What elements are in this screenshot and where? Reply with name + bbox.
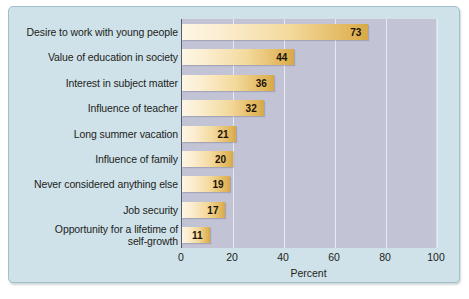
bar-row: 17 bbox=[182, 202, 436, 218]
bar-row: 73 bbox=[182, 24, 436, 40]
category-label-line: Influence of teacher bbox=[6, 102, 178, 114]
bar-value-label: 32 bbox=[246, 103, 257, 114]
plot-area: 734436322120191711 bbox=[181, 19, 436, 248]
bar-value-label: 19 bbox=[212, 179, 223, 190]
x-tick-80: 80 bbox=[379, 251, 391, 263]
bar-row: 44 bbox=[182, 49, 436, 65]
category-label-line: Never considered anything else bbox=[6, 178, 178, 190]
x-axis-title: Percent bbox=[181, 267, 436, 279]
category-label-line: Influence of family bbox=[6, 153, 178, 165]
bar-value-label: 21 bbox=[218, 128, 229, 139]
figure-root: Desire to work with young peopleValue of… bbox=[0, 0, 469, 299]
x-tick-40: 40 bbox=[277, 251, 289, 263]
category-label: Value of education in society bbox=[6, 51, 178, 63]
bar-value-label: 20 bbox=[215, 153, 226, 164]
x-tick-0: 0 bbox=[178, 251, 184, 263]
category-label: Never considered anything else bbox=[6, 178, 178, 190]
bar-row: 21 bbox=[182, 126, 436, 142]
bar-row: 11 bbox=[182, 227, 436, 243]
category-label-line: Opportunity for a lifetime of bbox=[6, 223, 178, 235]
bar bbox=[182, 24, 368, 40]
category-label-line: self-growth bbox=[6, 235, 178, 247]
gridline-100 bbox=[437, 19, 438, 248]
bar-value-label: 17 bbox=[207, 204, 218, 215]
category-label: Influence of family bbox=[6, 153, 178, 165]
bar-value-label: 36 bbox=[256, 77, 267, 88]
category-label-line: Value of education in society bbox=[6, 51, 178, 63]
category-label: Interest in subject matter bbox=[6, 77, 178, 89]
category-label-line: Interest in subject matter bbox=[6, 77, 178, 89]
category-label: Influence of teacher bbox=[6, 102, 178, 114]
category-label: Opportunity for a lifetime ofself-growth bbox=[6, 223, 178, 247]
category-label: Desire to work with young people bbox=[6, 26, 178, 38]
bar-row: 19 bbox=[182, 176, 436, 192]
x-tick-20: 20 bbox=[226, 251, 238, 263]
bar-value-label: 44 bbox=[276, 52, 287, 63]
category-label-line: Desire to work with young people bbox=[6, 26, 178, 38]
x-axis-tick-labels: 020406080100 bbox=[181, 251, 436, 265]
bar-row: 32 bbox=[182, 100, 436, 116]
bar-row: 36 bbox=[182, 75, 436, 91]
category-label: Job security bbox=[6, 204, 178, 216]
bar bbox=[182, 202, 225, 218]
category-axis-labels: Desire to work with young peopleValue of… bbox=[6, 19, 178, 248]
category-label-line: Long summer vacation bbox=[6, 128, 178, 140]
x-tick-60: 60 bbox=[328, 251, 340, 263]
bar-value-label: 11 bbox=[192, 230, 203, 241]
x-tick-100: 100 bbox=[427, 251, 445, 263]
bar-value-label: 73 bbox=[350, 26, 361, 37]
category-label: Long summer vacation bbox=[6, 128, 178, 140]
category-label-line: Job security bbox=[6, 204, 178, 216]
bar-row: 20 bbox=[182, 151, 436, 167]
